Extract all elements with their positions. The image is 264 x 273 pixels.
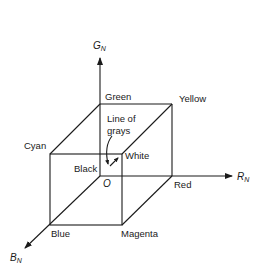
vertex-label-black: Black	[74, 163, 97, 174]
vertex-label-blue: Blue	[51, 228, 70, 239]
vertex-label-yellow: Yellow	[179, 93, 206, 104]
origin-label: O	[103, 178, 111, 189]
vertex-label-white: White	[125, 150, 149, 161]
b-axis-label: BN	[10, 252, 23, 264]
line-of-grays-label-line1: Line of	[107, 113, 136, 124]
color-cube-diagram: GN RN BN Green Yellow Cyan White Black O…	[0, 0, 264, 273]
vertex-label-magenta: Magenta	[121, 228, 159, 239]
vertex-label-green: Green	[105, 91, 131, 102]
line-of-grays-pointer	[107, 136, 118, 166]
line-of-grays-label-line2: grays	[107, 125, 130, 136]
r-axis-label: RN	[237, 171, 250, 183]
g-axis-label: GN	[93, 40, 107, 52]
vertex-label-red: Red	[174, 179, 191, 190]
vertex-label-cyan: Cyan	[24, 140, 46, 151]
